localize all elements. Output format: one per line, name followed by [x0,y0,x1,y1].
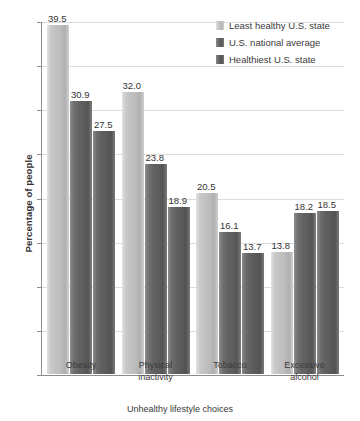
bar-value-label: 20.5 [197,182,216,192]
tick-mark [37,66,41,67]
tick-mark [37,22,41,23]
plot-area: 0510152025303540 39.530.927.532.023.818.… [41,22,344,375]
y-axis-title: Percentage of people [23,124,34,284]
bar [317,211,339,374]
category-label-line: inactivity [112,372,200,384]
bar [196,193,218,374]
tick-mark [37,375,41,376]
legend: Least healthy U.S. stateU.S. national av… [216,18,358,69]
legend-item: Least healthy U.S. state [216,18,358,32]
legend-swatch [216,21,224,30]
bar-value-label: 13.8 [272,241,291,251]
bar-value-label: 18.2 [295,202,314,212]
tick-mark [37,331,41,332]
category-label-line: alcohol [261,372,349,384]
bar-value-label: 18.9 [169,196,188,206]
bar-value-label: 13.7 [243,242,262,252]
bar [145,164,167,374]
legend-label: U.S. national average [229,37,320,48]
legend-label: Least healthy U.S. state [229,20,330,31]
bar [219,232,241,374]
x-axis-category-label: Excessivealcohol [261,360,349,383]
bar [294,213,316,374]
legend-swatch [216,55,224,64]
legend-item: Healthiest U.S. state [216,52,358,66]
tick-mark [37,243,41,244]
category-label-line: Excessive [261,360,349,372]
bar-value-label: 23.8 [146,153,165,163]
bar-value-label: 32.0 [123,81,142,91]
bar [70,101,92,374]
legend-item: U.S. national average [216,35,358,49]
bar [271,252,293,374]
bar-value-label: 27.5 [94,120,113,130]
tick-mark [37,287,41,288]
legend-label: Healthiest U.S. state [229,54,316,65]
x-axis-title: Unhealthy lifestyle choices [0,404,360,414]
bar [168,207,190,374]
bar-value-label: 18.5 [318,200,337,210]
tick-mark [37,199,41,200]
bar [242,253,264,374]
bar-value-label: 30.9 [71,90,90,100]
bar-value-label: 39.5 [48,14,67,24]
bar-chart: Percentage of people 0510152025303540 39… [0,0,360,421]
tick-mark [37,154,41,155]
bar [122,92,144,374]
bar [47,25,69,374]
legend-swatch [216,38,224,47]
bar [93,131,115,374]
bar-value-label: 16.1 [220,221,239,231]
tick-mark [37,110,41,111]
